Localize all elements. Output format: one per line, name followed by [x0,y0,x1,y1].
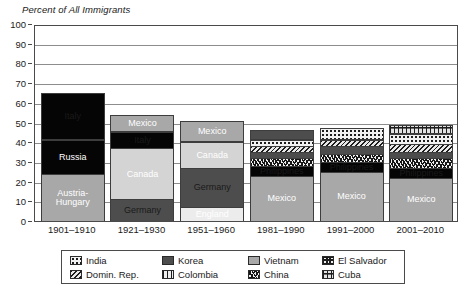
bar-2001–2010[interactable]: PhilippinesMexico [389,125,453,221]
segment-germany[interactable]: Germany [110,199,174,221]
y-axis-tick-30 [28,162,32,163]
bar-1921–1930[interactable]: MexicoItalyCanadaGermany [110,115,174,221]
segment-label: Philippines [329,163,375,172]
segment-vietnam[interactable] [320,146,384,154]
segment-mexico[interactable]: Mexico [320,172,384,221]
y-axis-tick-50 [28,123,32,124]
legend-swatch-icon [70,256,82,265]
y-axis-tick-80 [28,63,32,64]
legend-swatch-icon [70,270,82,279]
chart-legend: IndiaKoreaVietnamEl Salvador Domin. Rep.… [61,250,405,284]
segment-label: Canada [126,170,160,179]
x-axis-label-2001–2010: 2001–2010 [388,224,452,235]
y-axis-label-100: 100 [10,20,26,30]
legend-swatch-icon [248,270,260,279]
segment-philippines[interactable]: Philippines [250,166,314,176]
segment-philippines[interactable]: Philippines [389,168,453,178]
legend-item-cuba[interactable]: Cuba [322,269,361,280]
segment-label: Germany [193,183,232,192]
segment-label: Austria- Hungary [55,189,91,208]
legend-swatch-icon [322,256,334,265]
x-axis-label-1921–1930: 1921–1930 [109,224,173,235]
legend-item-colombia[interactable]: Colombia [162,269,218,280]
legend-label: Colombia [178,269,218,280]
segment-label: England [195,210,230,219]
segment-canada[interactable]: Canada [180,142,244,168]
y-axis: 0102030405060708090100 [0,25,32,222]
legend-item-domin-rep[interactable]: Domin. Rep. [70,269,139,280]
y-axis-label-40: 40 [15,138,26,148]
y-axis-tick-60 [28,103,32,104]
bar-1951–1960[interactable]: MexicoCanadaGermanyEngland [180,121,244,221]
segment-austria-hungary[interactable]: Austria- Hungary [41,174,105,221]
segment-label: Philippines [399,169,445,178]
x-axis: 1901–19101921–19301951–19601981–19901991… [34,224,458,238]
bar-1991–2000[interactable]: PhilippinesMexico [320,128,384,221]
y-axis-tick-100 [28,24,32,25]
segment-mexico[interactable]: Mexico [389,178,453,221]
legend-label: El Salvador [338,255,387,266]
segment-mexico[interactable]: Mexico [180,121,244,143]
segment-china[interactable] [320,154,384,162]
legend-item-vietnam[interactable]: Vietnam [248,255,299,266]
y-axis-label-60: 60 [15,99,26,109]
segment-italy[interactable]: Italy [41,93,105,140]
y-axis-label-10: 10 [15,198,26,208]
segment-mexico[interactable]: Mexico [110,115,174,133]
legend-item-india[interactable]: India [70,255,107,266]
bar-series: ItalyRussiaAustria- HungaryMexicoItalyCa… [35,26,457,221]
y-axis-tick-90 [28,44,32,45]
y-axis-tick-20 [28,182,32,183]
segment-mexico[interactable]: Mexico [250,176,314,221]
segment-label: Italy [133,136,152,145]
y-axis-label-20: 20 [15,178,26,188]
legend-row: IndiaKoreaVietnamEl Salvador [70,254,398,268]
segment-domin-rep[interactable] [389,144,453,152]
legend-swatch-icon [322,270,334,279]
legend-item-china[interactable]: China [248,269,289,280]
segment-label: Italy [63,112,82,121]
legend-label: India [86,255,107,266]
y-axis-label-30: 30 [15,158,26,168]
bar-1901–1910[interactable]: ItalyRussiaAustria- Hungary [41,93,105,221]
legend-swatch-icon [162,256,174,265]
segment-india[interactable] [389,134,453,144]
legend-label: China [264,269,289,280]
y-axis-label-90: 90 [15,40,26,50]
plot-area: ItalyRussiaAustria- HungaryMexicoItalyCa… [34,25,458,222]
segment-label: Mexico [127,119,158,128]
segment-russia[interactable]: Russia [41,140,105,173]
chart-axis-title: Percent of All Immigrants [22,4,130,15]
segment-canada[interactable]: Canada [110,148,174,199]
segment-italy[interactable]: Italy [110,132,174,148]
bar-1981–1990[interactable]: PhilippinesMexico [250,130,314,221]
legend-label: Domin. Rep. [86,269,139,280]
segment-label: Mexico [336,192,367,201]
y-axis-tick-70 [28,83,32,84]
legend-row: Domin. Rep.ColombiaChinaCuba [70,268,398,282]
y-axis-label-50: 50 [15,119,26,129]
y-axis-tick-0 [28,221,32,222]
legend-label: Vietnam [264,255,299,266]
segment-china[interactable] [389,158,453,168]
segment-india[interactable] [320,128,384,140]
segment-label: Russia [58,153,88,162]
segment-england[interactable]: England [180,207,244,221]
segment-cuba[interactable] [389,125,453,135]
segment-label: Germany [123,206,162,215]
legend-swatch-icon [162,270,174,279]
segment-label: Canada [195,151,229,160]
segment-china[interactable] [250,158,314,166]
segment-label: Mexico [267,194,298,203]
segment-philippines[interactable]: Philippines [320,162,384,172]
y-axis-tick-40 [28,142,32,143]
legend-item-korea[interactable]: Korea [162,255,203,266]
immigration-stacked-bar-chart: Percent of All Immigrants 01020304050607… [0,0,466,298]
x-axis-label-1981–1990: 1981–1990 [249,224,313,235]
segment-germany[interactable]: Germany [180,168,244,207]
y-axis-tick-10 [28,201,32,202]
x-axis-label-1951–1960: 1951–1960 [179,224,243,235]
legend-item-el-salvador[interactable]: El Salvador [322,255,387,266]
segment-korea[interactable] [250,130,314,140]
x-axis-label-1901–1910: 1901–1910 [40,224,104,235]
